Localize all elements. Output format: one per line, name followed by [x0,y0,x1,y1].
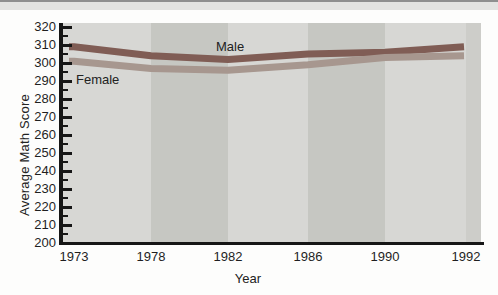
y-tick-label: 200 [26,236,56,250]
y-major-tick [63,98,72,101]
plot-area [63,23,481,242]
y-major-tick [63,224,72,227]
y-tick-label: 240 [26,164,56,178]
y-minor-tick [63,215,68,217]
y-major-tick [63,62,72,65]
y-tick-label: 290 [26,74,56,88]
y-tick-label: 220 [26,200,56,214]
scanned-chart-page: Average Math Score 320310300290280270260… [0,0,498,295]
y-minor-tick [63,179,68,181]
y-tick-label: 250 [26,146,56,160]
y-tick-label: 320 [26,20,56,34]
y-minor-tick [63,143,68,145]
y-major-tick [63,206,72,209]
y-major-tick [63,170,72,173]
y-major-tick [63,116,72,119]
male-series-label: Male [216,39,244,54]
y-tick-label: 300 [26,56,56,70]
x-tick-label: 1978 [137,250,166,264]
y-minor-tick [63,125,68,127]
y-major-tick [63,242,72,245]
x-tick-label: 1992 [452,250,481,264]
chart-lines [63,23,481,242]
y-major-tick [63,134,72,137]
y-tick-label: 210 [26,218,56,232]
y-minor-tick [63,89,68,91]
y-major-tick [63,152,72,155]
x-axis-title: Year [235,271,261,286]
y-minor-tick [63,197,68,199]
x-tick-label: 1982 [214,250,243,264]
page-top-rule [0,0,498,10]
y-minor-tick [63,71,68,73]
x-tick-label: 1973 [60,250,89,264]
x-axis-line [59,242,484,245]
y-minor-tick [63,35,68,37]
y-major-tick [63,26,72,29]
y-minor-tick [63,53,68,55]
y-major-tick [63,188,72,191]
female-series-label: Female [76,72,119,87]
x-tick-label: 1986 [294,250,323,264]
y-minor-tick [63,233,68,235]
y-tick-label: 310 [26,38,56,52]
y-tick-label: 230 [26,182,56,196]
y-minor-tick [63,107,68,109]
y-tick-label: 260 [26,128,56,142]
y-minor-tick [63,161,68,163]
y-tick-label: 280 [26,92,56,106]
y-major-tick [63,44,72,47]
x-tick-label: 1990 [371,250,400,264]
y-major-tick [63,80,72,83]
y-tick-label: 270 [26,110,56,124]
